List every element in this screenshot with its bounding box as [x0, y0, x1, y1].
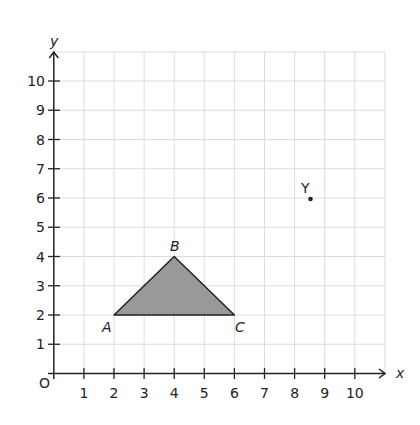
vertex-label-a: A [101, 319, 112, 335]
y-tick-label: 3 [36, 278, 45, 294]
x-tick-label: 5 [200, 385, 209, 401]
x-tick-labels: 1 2 3 4 5 6 7 8 9 10 [79, 385, 363, 401]
y-tick-label: 4 [36, 249, 45, 265]
x-tick-label: 10 [346, 385, 364, 401]
y-tick-label: 2 [36, 307, 45, 323]
y-tick-label: 10 [27, 73, 45, 89]
y-tick-label: 1 [36, 336, 45, 352]
coordinate-plane: 1 2 3 4 5 6 7 8 9 10 1 2 3 4 5 6 7 8 9 1… [0, 0, 420, 425]
vertex-label-b: B [170, 238, 180, 254]
point-y-label: Y [300, 180, 310, 196]
x-tick-label: 7 [260, 385, 269, 401]
axes [48, 52, 385, 379]
x-tick-label: 9 [320, 385, 329, 401]
y-tick-label: 9 [36, 102, 45, 118]
x-tick-label: 8 [290, 385, 299, 401]
x-tick-label: 6 [230, 385, 239, 401]
point-y [308, 197, 313, 202]
x-tick-label: 2 [110, 385, 119, 401]
x-axis-label: x [395, 365, 405, 381]
y-tick-label: 8 [36, 132, 45, 148]
ticks [48, 81, 355, 379]
y-tick-label: 6 [36, 190, 45, 206]
y-axis-label: y [49, 33, 59, 49]
y-tick-label: 5 [36, 219, 45, 235]
x-tick-label: 1 [79, 385, 88, 401]
x-tick-label: 3 [140, 385, 149, 401]
y-tick-labels: 1 2 3 4 5 6 7 8 9 10 [27, 73, 45, 352]
x-tick-label: 4 [170, 385, 179, 401]
y-tick-label: 7 [36, 161, 45, 177]
origin-label: O [39, 375, 50, 391]
vertex-label-c: C [235, 319, 245, 335]
